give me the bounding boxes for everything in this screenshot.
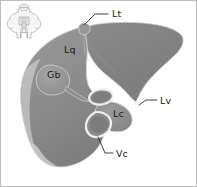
label-gb: Gb — [47, 69, 61, 80]
label-lq: Lq — [64, 44, 76, 55]
label-vc: Vc — [116, 148, 128, 159]
caudal-vena-cava-opening — [86, 112, 111, 137]
leader-line-lv — [139, 100, 157, 105]
figure-container: Lt Lq Gb Lv Lc Vc — [0, 0, 197, 187]
orientation-inset — [2, 2, 46, 43]
label-lc: Lc — [113, 108, 124, 119]
label-lv: Lv — [160, 95, 171, 106]
liver-anatomy-illustration: Lt Lq Gb Lv Lc Vc — [0, 0, 197, 187]
label-lt: Lt — [112, 8, 121, 19]
